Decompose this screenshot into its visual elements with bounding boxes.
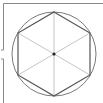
hexagon-in-circle-diagram [0, 0, 103, 103]
center-point [52, 52, 55, 55]
